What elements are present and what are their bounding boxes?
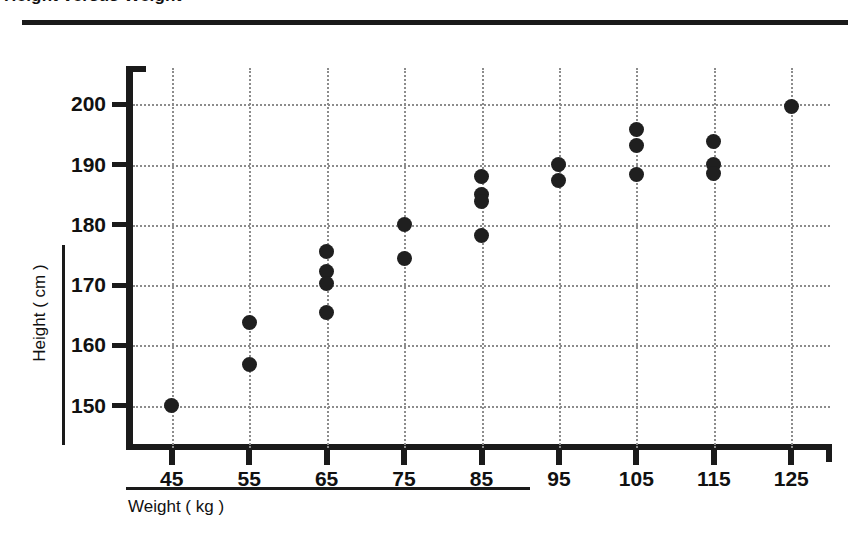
x-axis-tick-label: 115 — [679, 468, 749, 490]
y-axis-tick — [112, 343, 127, 348]
data-point — [629, 122, 644, 137]
y-axis-tick-label-text: 180 — [50, 214, 106, 235]
data-point — [474, 228, 489, 243]
x-axis-tick — [246, 450, 252, 465]
y-axis-tick-label: 200 — [40, 93, 106, 115]
y-axis-tick — [112, 162, 127, 167]
gridline-vertical — [791, 68, 793, 448]
data-point — [319, 305, 334, 320]
gridline-vertical — [482, 68, 484, 448]
data-point — [706, 166, 721, 181]
gridline-vertical — [714, 68, 716, 448]
x-axis-tick — [711, 450, 717, 465]
data-point — [397, 217, 412, 232]
y-axis-tick-label-text: 170 — [50, 274, 106, 295]
x-axis-tick-label: 95 — [524, 468, 594, 490]
x-axis-tick-label: 125 — [756, 468, 826, 490]
data-point — [319, 244, 334, 259]
y-axis-tick-label-text: 150 — [50, 395, 106, 416]
data-point — [242, 357, 257, 372]
y-axis-tick — [112, 403, 127, 408]
y-axis-tick-label-text: 200 — [50, 93, 106, 114]
data-point — [474, 194, 489, 209]
x-axis-tick-label-text: 95 — [547, 467, 570, 490]
y-axis-label-rule — [62, 245, 65, 445]
y-axis-tick-label: 190 — [40, 154, 106, 176]
x-axis-tick — [788, 450, 794, 465]
gridline-vertical — [172, 68, 174, 448]
y-axis-tick — [112, 102, 127, 107]
data-point — [164, 398, 179, 413]
gridline-vertical — [249, 68, 251, 448]
y-axis-tick-label-text: 160 — [50, 334, 106, 355]
x-axis-tick — [633, 450, 639, 465]
data-point — [629, 167, 644, 182]
y-axis-tick — [112, 283, 127, 288]
y-axis-tick-label-text: 190 — [50, 154, 106, 175]
scatter-plot: 150160170180190200 455565758595105115125… — [0, 0, 863, 545]
y-axis-top-cap — [126, 66, 146, 72]
x-axis-label-text: Weight ( kg ) — [128, 497, 224, 517]
y-axis-spine — [126, 66, 133, 450]
data-point — [784, 99, 799, 114]
data-point — [551, 173, 566, 188]
x-axis-tick-label-text: 115 — [697, 467, 731, 490]
chart-page: Height versus Weight 150160170180190200 … — [0, 0, 863, 545]
y-axis-label-text: Height ( cm ) — [30, 213, 50, 413]
data-point — [551, 157, 566, 172]
data-point — [474, 169, 489, 184]
data-point — [242, 315, 257, 330]
x-axis-right-cap — [826, 444, 832, 462]
x-axis-tick-label-text: 105 — [619, 467, 654, 490]
x-axis-tick-label-text: 125 — [774, 467, 809, 490]
y-axis-label: Height ( cm ) — [30, 213, 56, 413]
y-axis-tick — [112, 222, 127, 227]
gridline-vertical — [559, 68, 561, 448]
x-axis-tick — [169, 450, 175, 465]
x-axis-tick — [556, 450, 562, 465]
x-axis-label-rule — [126, 487, 530, 490]
data-point — [397, 251, 412, 266]
data-point — [319, 276, 334, 291]
data-point — [706, 134, 721, 149]
x-axis-tick — [324, 450, 330, 465]
data-point — [629, 138, 644, 153]
x-axis-tick-label: 105 — [601, 468, 671, 490]
x-axis-tick — [401, 450, 407, 465]
x-axis-tick — [479, 450, 485, 465]
